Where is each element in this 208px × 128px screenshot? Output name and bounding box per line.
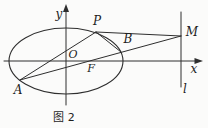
point-b-label: B bbox=[123, 32, 133, 46]
point-m-label: M bbox=[185, 25, 199, 39]
segment-a-f-b-m bbox=[20, 36, 181, 80]
x-axis-label: x bbox=[191, 62, 198, 76]
origin-label: O bbox=[68, 48, 77, 61]
segment-p-b bbox=[96, 32, 121, 52]
focus-label: F bbox=[86, 62, 95, 75]
ellipse-geometry-figure: y x O F A P B M l 图 2 bbox=[0, 0, 208, 128]
segment-p-m bbox=[96, 32, 181, 36]
y-axis-arrow-icon bbox=[63, 4, 69, 12]
y-axis-label: y bbox=[55, 7, 63, 21]
point-p-label: P bbox=[92, 14, 102, 28]
line-l-label: l bbox=[183, 82, 187, 96]
segment-a-p bbox=[20, 32, 96, 80]
point-a-label: A bbox=[13, 83, 23, 97]
figure-caption: 图 2 bbox=[53, 111, 75, 124]
figure-canvas: y x O F A P B M l 图 2 bbox=[0, 0, 208, 128]
